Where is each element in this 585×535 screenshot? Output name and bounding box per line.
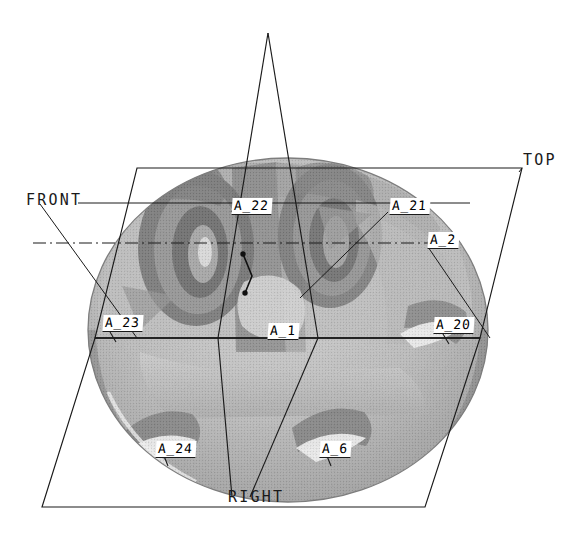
plane-label-right: RIGHT <box>228 489 284 505</box>
callout-a6: A_6 <box>319 441 351 458</box>
projection-scene <box>0 0 585 535</box>
plane-label-top: TOP <box>523 152 557 168</box>
callout-a23: A_23 <box>102 315 143 332</box>
callout-a24: A_24 <box>155 441 196 458</box>
callout-a20: A_20 <box>433 317 474 334</box>
callout-a21: A_21 <box>389 198 430 215</box>
drawing-sheet: TOP FRONT RIGHT A_22 A_21 A_2 A_23 A_1 A… <box>0 0 585 535</box>
plane-label-front: FRONT <box>26 192 82 208</box>
datum-point-upper <box>240 251 245 256</box>
callout-a2: A_2 <box>427 232 459 249</box>
datum-point-lower <box>242 290 247 295</box>
callout-a1: A_1 <box>267 323 299 340</box>
callout-a22: A_22 <box>231 198 272 215</box>
